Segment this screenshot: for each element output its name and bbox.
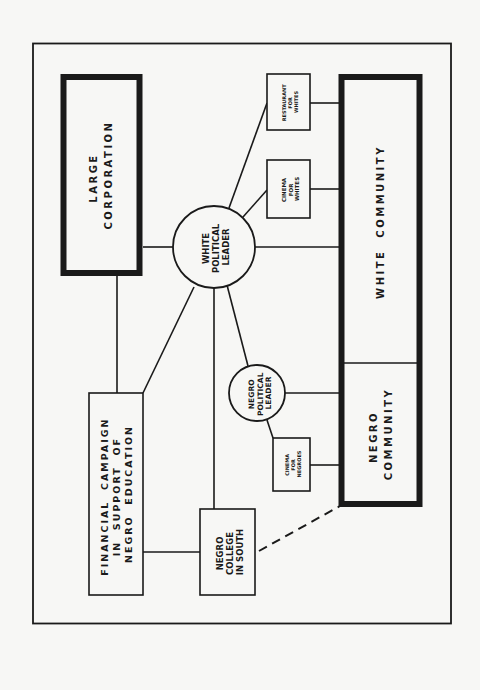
large-corporation-box xyxy=(64,77,140,273)
diagram-canvas: LARGE CORPORATION WHITE COMMUNITY NEGRO … xyxy=(0,0,480,690)
financial-campaign-label: FINANCIAL CAMPAIGN IN SUPPORT OF NEGRO E… xyxy=(99,412,134,576)
edge-college-to-negro-community-dashed xyxy=(259,506,340,551)
edge-white-leader-to-negro-leader xyxy=(227,285,248,366)
negro-college-label: NEGRO COLLEGE IN SOUTH xyxy=(215,529,245,575)
edge-white-leader-to-cinema-whites xyxy=(243,190,267,217)
edge-negro-leader-to-cinema-negroes xyxy=(267,420,273,438)
white-community-label: WHITE COMMUNITY xyxy=(375,145,386,299)
negro-political-leader-label: NEGRO POLITICAL LEADER xyxy=(247,370,273,416)
diagram-svg: LARGE CORPORATION WHITE COMMUNITY NEGRO … xyxy=(0,0,480,690)
edge-white-leader-to-restaurant xyxy=(229,103,267,208)
edge-white-leader-to-financial xyxy=(143,287,194,393)
